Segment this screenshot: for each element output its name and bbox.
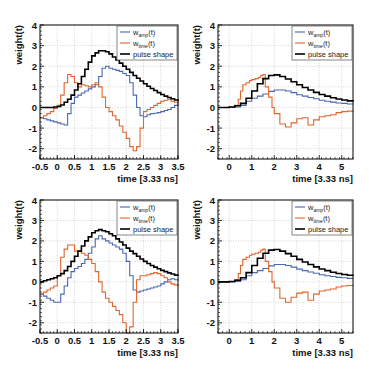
chart-panel-bottom-left: -0.500.511.522.533.5time [3.33 ns]-2-101…: [0, 175, 185, 375]
svg-text:pulse shape: pulse shape: [133, 225, 173, 234]
y-axis-label: weight(t): [191, 25, 202, 66]
x-tick-label: 2: [272, 335, 277, 346]
x-tick-label: 0.5: [68, 335, 82, 346]
y-tick-label: -1: [29, 297, 38, 308]
x-tick-label: 1: [249, 161, 255, 172]
legend: wamp(t)wtime(t)pulse shape: [117, 26, 177, 60]
svg-text:pulse shape: pulse shape: [133, 50, 173, 59]
y-tick-label: -2: [207, 317, 215, 328]
chart-panel-bottom-right: 012345time [3.33 ns]-2-101234weight(t)wa…: [178, 175, 369, 375]
y-tick-label: 4: [210, 20, 216, 31]
y-tick-label: -1: [207, 123, 216, 134]
y-tick-label: 3: [32, 215, 37, 226]
chart-panel-top-left: -0.500.511.522.533.5time [3.33 ns]-2-101…: [0, 0, 185, 185]
y-tick-label: 0: [32, 102, 37, 113]
x-tick-label: 0.5: [68, 161, 82, 172]
y-tick-label: 4: [210, 195, 216, 206]
x-tick-label: 1: [249, 335, 255, 346]
x-axis-label: time [3.33 ns]: [117, 347, 178, 358]
y-tick-label: 3: [210, 40, 215, 51]
y-tick-label: 2: [210, 235, 215, 246]
legend: wamp(t)wtime(t)pulse shape: [292, 26, 352, 60]
x-tick-label: 1.5: [102, 335, 116, 346]
x-tick-label: 1.5: [102, 161, 116, 172]
y-tick-label: 2: [210, 61, 215, 72]
x-tick-label: 5: [339, 161, 345, 172]
x-tick-label: 0: [227, 335, 232, 346]
y-tick-label: 0: [32, 276, 37, 287]
y-axis: -2-101234weight(t): [13, 195, 44, 334]
y-tick-label: 3: [32, 40, 37, 51]
x-tick-label: -0.5: [32, 161, 49, 172]
y-tick-label: 1: [32, 81, 38, 92]
x-tick-label: 4: [317, 335, 323, 346]
y-axis-label: weight(t): [191, 200, 202, 241]
time-series-line: [218, 249, 353, 302]
x-tick-label: 3: [294, 161, 299, 172]
svg-text:pulse shape: pulse shape: [308, 225, 348, 234]
chart-panel-top-right: 012345time [3.33 ns]-2-101234weight(t)wa…: [178, 0, 369, 185]
y-tick-label: 1: [210, 81, 216, 92]
y-tick-label: 4: [32, 195, 38, 206]
x-tick-label: 2: [272, 161, 277, 172]
x-tick-label: 2: [124, 161, 129, 172]
x-tick-label: 3: [158, 335, 163, 346]
x-tick-label: 0: [55, 335, 60, 346]
x-tick-label: 0: [227, 161, 232, 172]
x-tick-label: 0: [55, 161, 60, 172]
y-axis: -2-101234weight(t): [191, 195, 222, 334]
x-axis-label: time [3.33 ns]: [292, 347, 353, 358]
x-tick-label: 5: [339, 335, 345, 346]
y-axis: -2-101234weight(t): [191, 20, 222, 160]
y-tick-label: -1: [29, 123, 38, 134]
x-tick-label: -0.5: [32, 335, 49, 346]
x-tick-label: 4: [317, 161, 323, 172]
y-tick-label: 4: [32, 20, 38, 31]
y-tick-label: 0: [210, 276, 215, 287]
y-tick-label: 1: [210, 256, 216, 267]
y-tick-label: -1: [207, 297, 216, 308]
x-tick-label: 1: [89, 161, 95, 172]
y-axis-label: weight(t): [13, 25, 24, 66]
y-tick-label: -2: [207, 143, 215, 154]
y-tick-label: 2: [32, 235, 37, 246]
y-tick-label: -2: [29, 143, 37, 154]
x-tick-label: 2.5: [137, 161, 151, 172]
y-axis-label: weight(t): [13, 200, 24, 241]
y-tick-label: 2: [32, 61, 37, 72]
x-tick-label: 2: [124, 335, 129, 346]
x-tick-label: 2.5: [137, 335, 151, 346]
y-tick-label: 3: [210, 215, 215, 226]
time-series-line: [218, 74, 353, 127]
y-tick-label: 0: [210, 102, 215, 113]
y-tick-label: 1: [32, 256, 38, 267]
x-tick-label: 3: [294, 335, 299, 346]
y-axis: -2-101234weight(t): [13, 20, 44, 160]
x-tick-label: 1: [89, 335, 95, 346]
legend: wamp(t)wtime(t)pulse shape: [117, 201, 177, 235]
y-tick-label: -2: [29, 317, 37, 328]
svg-text:pulse shape: pulse shape: [308, 50, 348, 59]
legend: wamp(t)wtime(t)pulse shape: [292, 201, 352, 235]
x-tick-label: 3: [158, 161, 163, 172]
